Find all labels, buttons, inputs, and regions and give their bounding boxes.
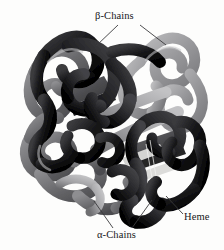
hemoglobin-figure: β-Chains α-Chains Heme <box>0 0 224 250</box>
label-alpha-chains: α-Chains <box>97 230 136 241</box>
label-beta-chains: β-Chains <box>95 11 134 22</box>
label-heme: Heme <box>184 212 209 223</box>
